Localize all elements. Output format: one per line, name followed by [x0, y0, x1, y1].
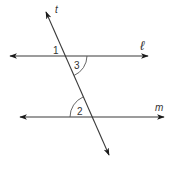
angle-1-label: 1 — [53, 45, 59, 56]
angle-3-label: 3 — [74, 60, 80, 71]
label-t: t — [55, 4, 59, 15]
angle-2-label: 2 — [77, 106, 83, 117]
label-l: ℓ — [140, 38, 145, 53]
parallel-lines-diagram: t ℓ m 1 3 2 — [0, 0, 171, 170]
label-m: m — [155, 102, 163, 113]
transversal-t — [46, 12, 109, 155]
